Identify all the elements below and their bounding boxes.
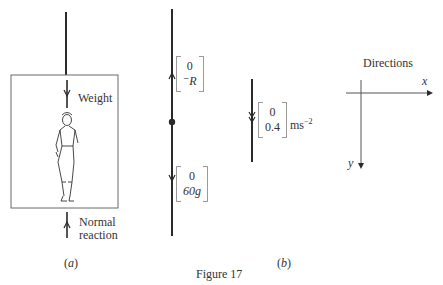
- weight-vector-y: 60g: [183, 184, 201, 199]
- part-a-label: (a): [64, 256, 78, 271]
- weight-label: Weight: [78, 92, 112, 105]
- reaction-vector-x: 0: [183, 59, 197, 74]
- acceleration-unit: ms−2: [290, 115, 313, 132]
- normal-reaction-arrow-icon: [64, 212, 70, 238]
- weight-vector: 0 60g: [176, 166, 208, 202]
- reaction-vector: 0 ⁻R: [176, 56, 204, 92]
- particle-dot: [169, 119, 175, 125]
- diagram-canvas: [0, 0, 443, 285]
- directions-title: Directions: [363, 57, 413, 70]
- weight-vector-x: 0: [183, 169, 201, 184]
- person-icon: [56, 113, 78, 202]
- y-axis-label: y: [348, 157, 353, 170]
- acceleration-x: 0: [265, 105, 280, 120]
- acceleration-y: 0.4: [265, 120, 280, 135]
- figure-caption: Figure 17: [196, 267, 242, 282]
- part-b-label: (b): [277, 256, 291, 271]
- acceleration-vector: 0 0.4: [258, 102, 287, 138]
- x-axis-label: x: [422, 75, 427, 88]
- weight-arrow-icon: [64, 80, 70, 108]
- reaction-vector-y: ⁻R: [183, 74, 197, 89]
- reaction-label: reaction: [79, 229, 118, 242]
